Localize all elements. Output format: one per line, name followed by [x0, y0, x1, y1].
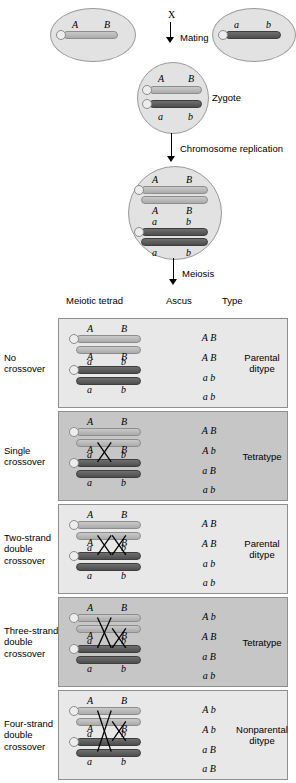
zygote-allele-b: b [188, 112, 193, 122]
meiosis-label: Meiosis [182, 268, 214, 279]
ascus-spore-2: A B [181, 353, 237, 363]
zygote-chromosome-AB [142, 86, 202, 94]
centromere-icon [69, 613, 79, 623]
crossover-panel-1: ABABababA BA Ba ba bParentalditype [58, 318, 288, 408]
meiotic-tetrad-1: ABABabab [59, 319, 181, 407]
centromere-icon [142, 99, 152, 109]
ascus-spore-3: a B [181, 745, 237, 755]
replicated-allele-b-2: b [186, 248, 191, 258]
ascus-spore-4: a B [181, 764, 237, 774]
ascus-column-4: A bA Ba Ba b [181, 598, 237, 686]
parent-right-chromosome [218, 31, 280, 39]
chromatid-3 [69, 366, 141, 374]
column-header-ascus: Ascus [166, 295, 192, 306]
row-label-2: Singlecrossover [4, 445, 60, 468]
chromatid-1-allele-1: A [87, 324, 93, 334]
column-header-tetrad: Meiotic tetrad [66, 295, 123, 306]
chromatid-1-allele-2: B [121, 324, 127, 334]
meiotic-tetrad-5: ABABabab [59, 691, 181, 779]
replicated-allele-B-1: B [186, 175, 192, 185]
ascus-spore-2: A B [181, 539, 237, 549]
row-label-1: Nocrossover [4, 352, 60, 375]
meiosis-arrow [169, 258, 178, 286]
centromere-icon [56, 30, 66, 40]
cross-symbol: X [168, 10, 175, 20]
replicated-allele-B-2: B [186, 206, 192, 216]
zygote-label: Zygote [212, 92, 241, 103]
replicated-chromatid-4 [134, 238, 208, 246]
ascus-spore-1: A b [181, 612, 237, 622]
mating-arrow [166, 22, 175, 44]
crossover-panel-4: ABABababA bA Ba Ba bTetratype [58, 597, 288, 687]
parent-right-allele-a: a [234, 20, 239, 30]
replicated-allele-a-2: a [152, 248, 157, 258]
centromere-icon [69, 520, 79, 530]
replicated-chromatid-2 [134, 196, 208, 204]
ascus-column-1: A BA Ba ba b [181, 319, 237, 407]
zygote-cell [137, 62, 209, 134]
crossover-lines [59, 412, 181, 500]
parent-right-allele-b: b [266, 20, 271, 30]
chromatid-4 [69, 377, 141, 385]
replicated-allele-b-1: b [186, 217, 191, 227]
tetrad-type-2: Tetratype [235, 412, 289, 500]
crossover-panel-2: ABABababA BA ba Ba bTetratype [58, 411, 288, 501]
centromere-icon [69, 706, 79, 716]
ascus-spore-1: A B [181, 333, 237, 343]
ascus-spore-4: a b [181, 578, 237, 588]
centromere-icon [69, 334, 79, 344]
crossover-lines [59, 598, 181, 686]
row-label-3: Two-stranddoublecrossover [4, 532, 60, 567]
meiotic-tetrad-4: ABABabab [59, 598, 181, 686]
tetrad-type-1: Parentalditype [235, 319, 289, 407]
cross-diagram: A B a b X Mating A B a b Zygote Chromoso… [0, 0, 296, 292]
crossover-panel-5: ABABababA bA ba Ba BNonparentalditype [58, 690, 288, 780]
replicated-chromatid-1 [134, 186, 208, 194]
ascus-spore-1: A b [181, 705, 237, 715]
replicated-allele-A-2: A [152, 206, 158, 216]
crossover-lines [59, 691, 181, 779]
replication-label: Chromosome replication [180, 143, 283, 154]
ascus-spore-2: A B [181, 632, 237, 642]
centromere-icon [69, 644, 79, 654]
centromere-icon [69, 551, 79, 561]
ascus-spore-3: a b [181, 559, 237, 569]
row-label-5: Four-stranddoublecrossover [4, 718, 60, 753]
zygote-allele-a: a [158, 112, 163, 122]
tetrad-type-5: Nonparentalditype [235, 691, 289, 779]
centromere-icon [134, 227, 144, 237]
centromere-icon [69, 737, 79, 747]
replicated-allele-a-1: a [152, 217, 157, 227]
chromatid-4-allele-2: b [121, 385, 126, 395]
mating-label: Mating [180, 32, 209, 43]
ascus-spore-3: a B [181, 652, 237, 662]
ascus-spore-2: A b [181, 725, 237, 735]
replication-arrow [167, 133, 176, 163]
chromatid-3-allele-1: a [87, 357, 92, 367]
chromatid-2 [69, 346, 141, 354]
ascus-column-3: A BA Ba ba b [181, 505, 237, 593]
ascus-spore-3: a B [181, 466, 237, 476]
ascus-spore-1: A B [181, 519, 237, 529]
centromere-icon [134, 185, 144, 195]
zygote-chromosome-ab [142, 100, 202, 108]
ascus-spore-2: A b [181, 446, 237, 456]
centromere-icon [69, 427, 79, 437]
ascus-spore-4: a b [181, 392, 237, 402]
crossover-lines [59, 505, 181, 593]
parent-left-allele-B: B [104, 20, 110, 30]
ascus-column-5: A bA ba Ba B [181, 691, 237, 779]
chromatid-1 [69, 335, 141, 343]
zygote-allele-A: A [158, 74, 164, 84]
crossover-panel-3: ABABababA BA Ba ba bParentalditype [58, 504, 288, 594]
centromere-icon [69, 365, 79, 375]
tetrad-type-3: Parentalditype [235, 505, 289, 593]
ascus-spore-3: a b [181, 373, 237, 383]
centromere-icon [69, 458, 79, 468]
centromere-icon [218, 30, 228, 40]
centromere-icon [142, 85, 152, 95]
chromatid-3-allele-2: b [121, 357, 126, 367]
tetrad-type-4: Tetratype [235, 598, 289, 686]
row-label-4: Three-stranddoublecrossover [4, 625, 60, 660]
ascus-spore-4: a b [181, 671, 237, 681]
